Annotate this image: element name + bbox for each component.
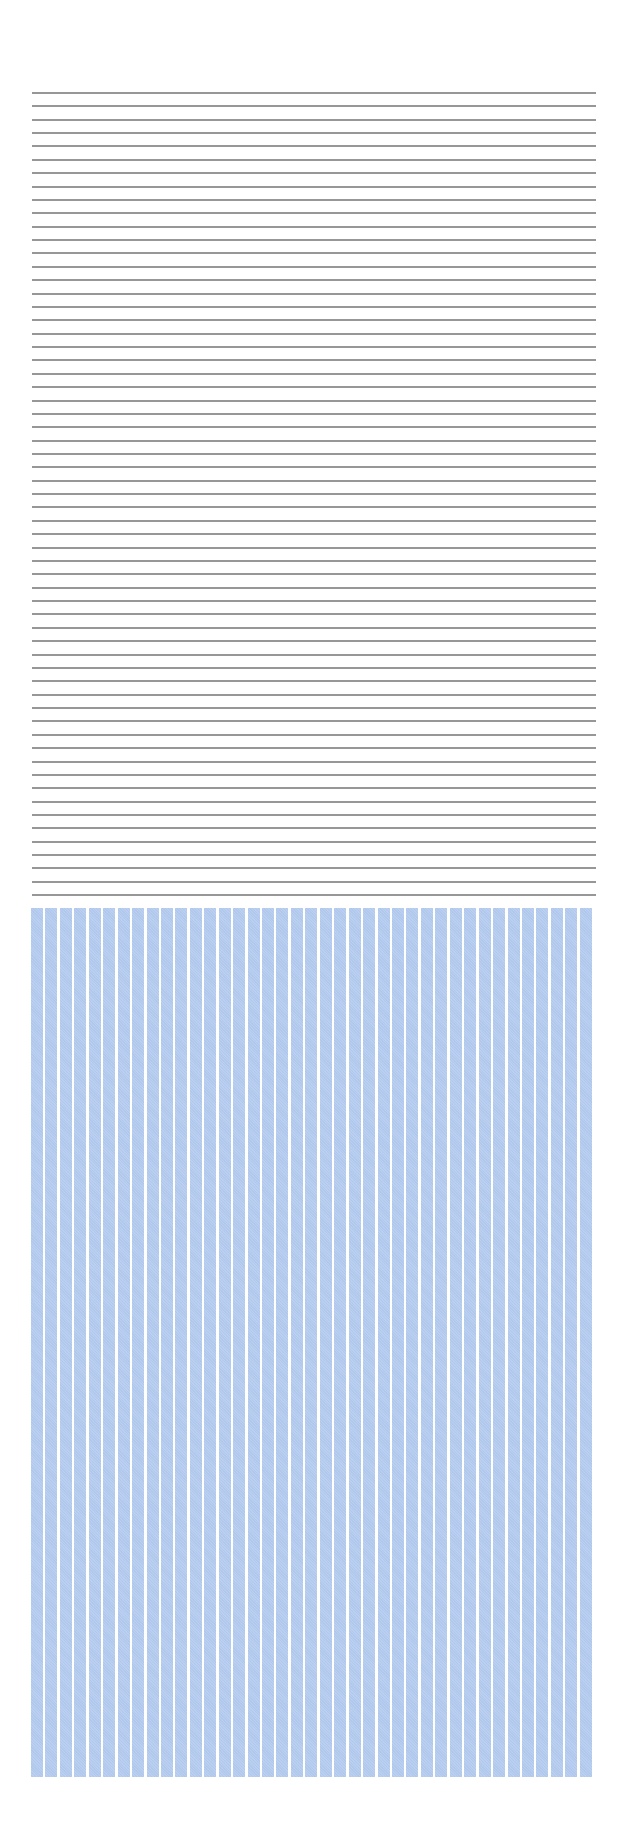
blue-vertical-stripe: [31, 908, 43, 1777]
horizontal-rule-line: [32, 694, 596, 696]
horizontal-rule-line: [32, 132, 596, 134]
horizontal-rule-line: [32, 293, 596, 295]
blue-vertical-stripe: [349, 908, 361, 1777]
horizontal-rule-line: [32, 613, 596, 615]
blue-vertical-stripe: [262, 908, 274, 1777]
blue-vertical-stripe: [276, 908, 288, 1777]
horizontal-rule-line: [32, 346, 596, 348]
horizontal-rule-line: [32, 319, 596, 321]
horizontal-rule-line: [32, 680, 596, 682]
horizontal-rule-line: [32, 453, 596, 455]
blue-vertical-stripe: [291, 908, 303, 1777]
horizontal-rule-line: [32, 867, 596, 869]
blue-vertical-stripe: [45, 908, 57, 1777]
horizontal-rule-line: [32, 239, 596, 241]
horizontal-rule-line: [32, 186, 596, 188]
horizontal-rule-line: [32, 827, 596, 829]
blue-vertical-stripe: [363, 908, 375, 1777]
blue-vertical-stripe: [74, 908, 86, 1777]
horizontal-rule-line: [32, 426, 596, 428]
blue-vertical-stripe: [421, 908, 433, 1777]
horizontal-rule-line: [32, 493, 596, 495]
blue-vertical-stripe: [204, 908, 216, 1777]
blue-vertical-stripe: [248, 908, 260, 1777]
horizontal-rule-line: [32, 627, 596, 629]
blue-vertical-stripe: [522, 908, 534, 1777]
horizontal-rule-line: [32, 600, 596, 602]
blue-vertical-stripe: [305, 908, 317, 1777]
blue-vertical-stripe: [60, 908, 72, 1777]
horizontal-rule-line: [32, 105, 596, 107]
horizontal-rule-line: [32, 119, 596, 121]
horizontal-rule-line: [32, 226, 596, 228]
blue-vertical-stripe: [536, 908, 548, 1777]
blue-vertical-stripe: [132, 908, 144, 1777]
vertical-stripes-region: [31, 908, 594, 1777]
horizontal-rule-line: [32, 787, 596, 789]
blue-vertical-stripe: [175, 908, 187, 1777]
horizontal-rule-line: [32, 747, 596, 749]
blue-vertical-stripe: [190, 908, 202, 1777]
blue-vertical-stripe: [334, 908, 346, 1777]
horizontal-rule-line: [32, 881, 596, 883]
blue-vertical-stripe: [378, 908, 390, 1777]
horizontal-rule-line: [32, 573, 596, 575]
blue-vertical-stripe: [103, 908, 115, 1777]
horizontal-rule-line: [32, 373, 596, 375]
horizontal-rule-line: [32, 520, 596, 522]
blue-vertical-stripe: [565, 908, 577, 1777]
horizontal-rule-line: [32, 359, 596, 361]
horizontal-rule-line: [32, 654, 596, 656]
horizontal-rule-line: [32, 560, 596, 562]
horizontal-rule-line: [32, 801, 596, 803]
horizontal-rule-line: [32, 199, 596, 201]
blue-vertical-stripe: [551, 908, 563, 1777]
horizontal-rule-line: [32, 640, 596, 642]
horizontal-rule-line: [32, 266, 596, 268]
horizontal-rule-line: [32, 506, 596, 508]
horizontal-rule-line: [32, 587, 596, 589]
horizontal-rule-line: [32, 720, 596, 722]
blue-vertical-stripe: [435, 908, 447, 1777]
blue-vertical-stripe: [479, 908, 491, 1777]
horizontal-rule-line: [32, 774, 596, 776]
blue-vertical-stripe: [233, 908, 245, 1777]
horizontal-rule-line: [32, 480, 596, 482]
blue-vertical-stripe: [464, 908, 476, 1777]
horizontal-rule-line: [32, 413, 596, 415]
horizontal-rule-line: [32, 440, 596, 442]
blue-vertical-stripe: [147, 908, 159, 1777]
horizontal-rule-line: [32, 386, 596, 388]
horizontal-rule-line: [32, 400, 596, 402]
blue-vertical-stripe: [320, 908, 332, 1777]
blue-vertical-stripe: [406, 908, 418, 1777]
blue-vertical-stripe: [450, 908, 462, 1777]
horizontal-rule-line: [32, 533, 596, 535]
blue-vertical-stripe: [89, 908, 101, 1777]
horizontal-rule-line: [32, 667, 596, 669]
horizontal-rule-line: [32, 854, 596, 856]
blue-vertical-stripe: [580, 908, 592, 1777]
horizontal-rule-line: [32, 707, 596, 709]
horizontal-rule-line: [32, 547, 596, 549]
horizontal-rule-line: [32, 145, 596, 147]
horizontal-rule-line: [32, 172, 596, 174]
horizontal-rule-line: [32, 92, 596, 94]
blue-vertical-stripe: [118, 908, 130, 1777]
horizontal-rule-line: [32, 333, 596, 335]
blue-vertical-stripe: [508, 908, 520, 1777]
horizontal-rule-line: [32, 306, 596, 308]
blue-vertical-stripe: [392, 908, 404, 1777]
horizontal-rule-line: [32, 734, 596, 736]
horizontal-rule-line: [32, 894, 596, 896]
horizontal-rule-line: [32, 212, 596, 214]
horizontal-rule-line: [32, 159, 596, 161]
horizontal-rule-line: [32, 279, 596, 281]
horizontal-rule-line: [32, 252, 596, 254]
horizontal-rule-line: [32, 466, 596, 468]
blue-vertical-stripe: [493, 908, 505, 1777]
blue-vertical-stripe: [219, 908, 231, 1777]
horizontal-rule-line: [32, 814, 596, 816]
horizontal-rule-line: [32, 761, 596, 763]
horizontal-rule-line: [32, 841, 596, 843]
